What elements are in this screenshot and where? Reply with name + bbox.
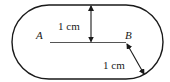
point-label-b: B <box>125 29 132 41</box>
stadium-diagram: A B 1 cm 1 cm <box>0 0 170 82</box>
diagonal-measure-label: 1 cm <box>103 59 125 71</box>
vertical-measure-label: 1 cm <box>58 20 80 32</box>
diagonal-measure-arrow <box>127 44 144 74</box>
point-label-a: A <box>35 29 43 41</box>
